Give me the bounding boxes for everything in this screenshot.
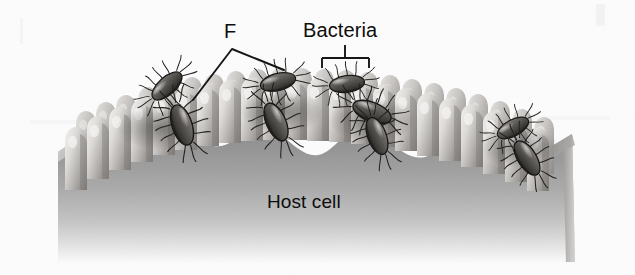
- host-cell-illustration: [0, 0, 635, 275]
- figure-canvas: F Bacteria Host cell: [0, 0, 635, 275]
- label-host-cell: Host cell: [267, 192, 341, 211]
- label-bacteria: Bacteria: [303, 20, 377, 40]
- label-fimbriae: F: [224, 21, 236, 41]
